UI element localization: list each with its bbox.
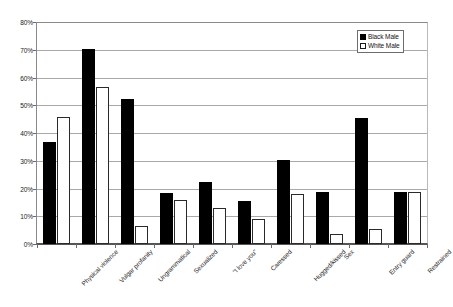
bar-group [37,23,76,244]
bar-white-male [330,234,344,244]
bars-layer [37,23,427,244]
x-axis-category-label: Vulgar profanity [117,248,154,285]
y-axis: 80%70%60%50%40%30%20%10%0% [0,22,33,244]
x-axis-category-label: "I love you" [231,248,259,276]
y-axis-tick-label: 20% [3,185,33,192]
x-axis-category-label: Ungrammatical [156,248,192,284]
legend-label: Black Male [368,33,399,41]
bar-black-male [160,193,174,244]
y-axis-tick-label: 40% [3,130,33,137]
x-axis-category-label: Physical violence [80,248,120,288]
bar-black-male [238,201,252,244]
bar-white-male [96,87,110,244]
bar-group [232,23,271,244]
bar-group [310,23,349,244]
chart-legend: Black MaleWhite Male [357,30,404,53]
bar-white-male [291,194,305,244]
bar-white-male [135,226,149,244]
y-axis-tick-label: 0% [3,241,33,248]
bar-white-male [213,208,227,244]
y-axis-tick-label: 50% [3,102,33,109]
y-axis-tick-label: 70% [3,46,33,53]
legend-item: Black Male [360,32,400,41]
legend-item: White Male [360,41,400,50]
bar-black-male [82,49,96,244]
bar-black-male [316,192,330,244]
x-axis-category-label: Caressed [268,248,293,273]
x-axis-category-label: Hugged/kissed [312,248,347,283]
bar-group [193,23,232,244]
y-axis-tick-label: 10% [3,213,33,220]
bar-group [388,23,427,244]
bar-black-male [199,182,213,244]
bar-group [271,23,310,244]
bar-black-male [121,99,135,244]
bar-black-male [43,142,57,244]
bar-black-male [394,192,408,244]
bar-group [349,23,388,244]
bar-white-male [408,192,422,244]
x-axis-category-label: Restrained [425,248,452,275]
bar-black-male [277,160,291,244]
bar-black-male [355,118,369,244]
x-axis-category-label: Entry guard [387,248,416,277]
bar-white-male [252,219,266,244]
legend-swatch-white-icon [360,43,366,49]
bar-white-male [174,200,188,244]
bar-group [76,23,115,244]
bar-white-male [369,229,383,244]
y-axis-tick-label: 60% [3,74,33,81]
x-axis-labels: Physical violenceVulgar profanityUngramm… [0,248,435,307]
legend-label: White Male [368,42,400,50]
bar-white-male [57,117,71,244]
bar-group [115,23,154,244]
y-axis-tick-label: 30% [3,157,33,164]
bar-group [154,23,193,244]
legend-swatch-black-icon [360,34,366,40]
y-axis-tick-label: 80% [3,19,33,26]
x-axis-category-label: Sexualized [192,248,219,275]
